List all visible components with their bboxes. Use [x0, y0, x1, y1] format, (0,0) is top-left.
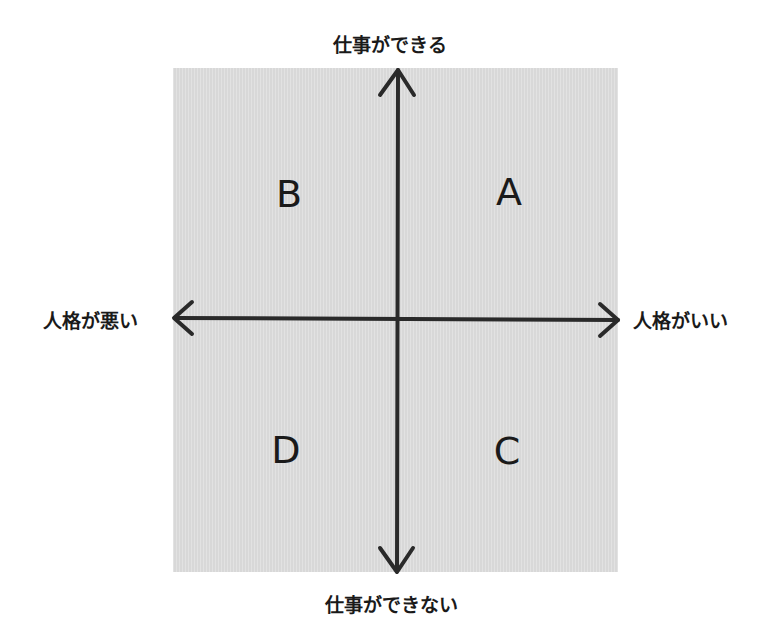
- axis-label-left: 人格が悪い: [43, 306, 138, 333]
- quadrant-label-b: B: [276, 172, 302, 216]
- quadrant-label-a: A: [496, 170, 522, 214]
- horizontal-axis: [175, 318, 618, 320]
- quadrant-label-d: D: [271, 428, 300, 472]
- quadrant-label-c: C: [494, 429, 521, 473]
- axis-label-right: 人格がいい: [633, 306, 728, 333]
- axis-label-top: 仕事ができる: [333, 30, 447, 57]
- axis-label-bottom: 仕事ができない: [325, 590, 458, 617]
